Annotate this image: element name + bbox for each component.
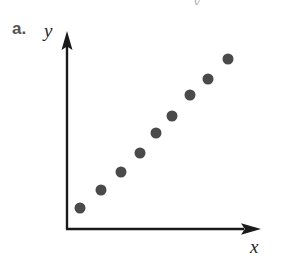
data-point <box>167 111 178 122</box>
y-axis-label: y <box>44 20 52 42</box>
data-point <box>185 90 196 101</box>
data-point <box>96 185 107 196</box>
scatter-points-group <box>0 0 283 263</box>
data-point <box>75 203 86 214</box>
data-point <box>203 74 214 85</box>
data-point <box>116 167 127 178</box>
data-point <box>223 54 234 65</box>
data-point <box>135 148 146 159</box>
data-point <box>151 128 162 139</box>
x-axis-label: x <box>250 236 258 258</box>
figure-container: y a. y x <box>0 0 283 263</box>
